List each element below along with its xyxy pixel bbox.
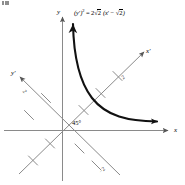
- x-prime-axis-label: x′: [146, 48, 151, 55]
- equation-text: (y′)2 = 2√2 (x′ − √2): [74, 9, 125, 16]
- y-prime-axis-line: [20, 77, 120, 175]
- y-prime-axis-label: y′: [11, 70, 16, 77]
- angle-label: 45°: [72, 120, 81, 127]
- conic-rotation-figure: (y′)2 = 2√2 (x′ − √2) x y x′ y′ 45° 2 −2…: [0, 0, 185, 185]
- figure-canvas: [0, 0, 185, 185]
- x-prime-axis-line: [19, 52, 144, 174]
- parabola-curve: [73, 24, 157, 122]
- equation-label: (y′)2 = 2√2 (x′ − √2): [74, 9, 125, 17]
- y-axis-label: y: [57, 9, 60, 16]
- x-axis-label: x: [174, 127, 177, 134]
